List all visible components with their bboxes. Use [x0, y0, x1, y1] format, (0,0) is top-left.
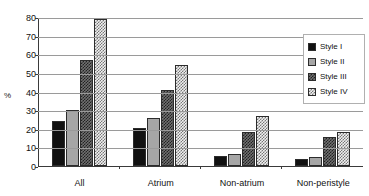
bar: [161, 90, 174, 166]
gridline: [38, 130, 363, 131]
legend-item: Style III: [308, 69, 361, 84]
bar: [175, 65, 188, 166]
x-axis-group-separator: [119, 166, 120, 169]
y-axis-tick-label: 70: [2, 32, 36, 41]
x-axis-category-labels: AllAtriumNon-atriumNon-peristyle: [39, 178, 364, 188]
bar: [295, 159, 308, 166]
bar: [323, 137, 336, 166]
x-axis-category-label: Non-peristyle: [283, 178, 364, 188]
bar: [147, 118, 160, 166]
y-axis-tick-label: 20: [2, 125, 36, 134]
y-axis-tick-mark: [35, 37, 38, 38]
legend-swatch: [308, 88, 316, 96]
legend-label: Style IV: [320, 87, 348, 96]
legend-swatch: [308, 43, 316, 51]
y-axis-tick-mark: [35, 18, 38, 19]
gridline: [38, 148, 363, 149]
bar: [66, 110, 79, 166]
y-axis-tick-mark: [35, 93, 38, 94]
legend-swatch: [308, 58, 316, 66]
x-axis-group-separator: [281, 166, 282, 169]
x-axis-category-label: Non-atrium: [202, 178, 283, 188]
legend-item: Style II: [308, 54, 361, 69]
bar: [80, 60, 93, 166]
bar: [228, 154, 241, 166]
gridline: [38, 111, 363, 112]
bar: [133, 128, 146, 166]
bar: [256, 116, 269, 166]
legend-item: Style I: [308, 39, 361, 54]
y-axis-tick-mark: [35, 55, 38, 56]
y-axis-tick-mark: [35, 111, 38, 112]
y-axis-tick-mark: [35, 130, 38, 131]
bar: [52, 121, 65, 166]
y-axis-tick-mark: [35, 167, 38, 168]
x-axis-group-separator: [200, 166, 201, 169]
x-axis-category-label: Atrium: [120, 178, 201, 188]
y-axis-tick-mark: [35, 148, 38, 149]
legend-label: Style I: [320, 42, 342, 51]
legend-item: Style IV: [308, 84, 361, 99]
y-axis-tick-label: 50: [2, 69, 36, 78]
legend-label: Style II: [320, 57, 344, 66]
bar: [214, 156, 227, 166]
y-axis-tick-mark: [35, 74, 38, 75]
y-axis-tick-label: 80: [2, 14, 36, 23]
bar-chart: % 01020304050607080 AllAtriumNon-atriumN…: [0, 0, 369, 196]
x-axis-category-label: All: [39, 178, 120, 188]
bar: [309, 157, 322, 166]
legend: Style IStyle IIStyle IIIStyle IV: [303, 34, 365, 104]
y-axis-tick-labels: 01020304050607080: [0, 0, 36, 196]
y-axis-tick-label: 10: [2, 144, 36, 153]
y-axis-tick-label: 40: [2, 88, 36, 97]
y-axis-tick-label: 0: [2, 163, 36, 172]
gridline: [38, 18, 363, 19]
y-axis-tick-label: 60: [2, 51, 36, 60]
legend-swatch: [308, 73, 316, 81]
y-axis-tick-label: 30: [2, 107, 36, 116]
legend-label: Style III: [320, 72, 347, 81]
